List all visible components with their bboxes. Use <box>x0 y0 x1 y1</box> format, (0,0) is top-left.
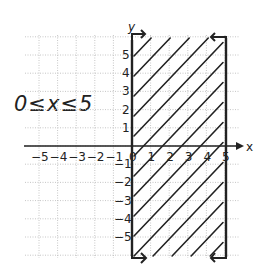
x-tick-label: 2 <box>166 150 174 164</box>
y-tick-label: −2 <box>114 175 132 189</box>
y-tick-label: −4 <box>114 212 132 226</box>
x-tick-label: −4 <box>50 150 68 164</box>
inequality-graph: 0≤x≤5 xy−5−4−3−2−101234512345−1−2−3−4−5 <box>0 0 257 279</box>
x-axis-arrow-icon <box>236 142 244 150</box>
x-tick-label: −5 <box>31 150 49 164</box>
arrow-top-right-icon <box>211 33 226 41</box>
coordinate-plane: xy−5−4−3−2−101234512345−1−2−3−4−5 <box>0 0 257 279</box>
x-tick-label: 1 <box>148 150 156 164</box>
arrow-bottom-left-icon <box>132 253 146 263</box>
y-tick-label: 2 <box>122 103 130 117</box>
x-tick-label: 3 <box>185 150 193 164</box>
shaded-region-hatch <box>134 38 223 256</box>
y-axis-label: y <box>127 20 136 34</box>
x-tick-label: −2 <box>87 150 105 164</box>
x-tick-label: 4 <box>203 150 211 164</box>
y-tick-label: −1 <box>114 157 132 171</box>
y-tick-label: 5 <box>122 48 130 62</box>
y-tick-label: −3 <box>114 194 132 208</box>
x-axis-label: x <box>246 140 253 154</box>
y-tick-label: 1 <box>122 121 130 135</box>
y-tick-label: 3 <box>122 84 130 98</box>
y-tick-label: −5 <box>114 230 132 244</box>
arrow-bottom-right-icon <box>211 253 226 262</box>
x-tick-label: −3 <box>68 150 86 164</box>
y-tick-label: 4 <box>122 66 130 80</box>
